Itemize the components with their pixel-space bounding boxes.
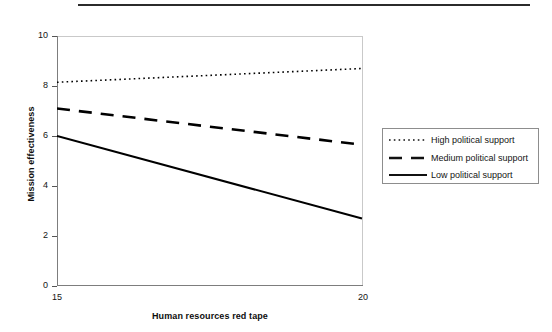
- x-tick-label-20: 20: [348, 293, 378, 302]
- series-line-high-political-support: [57, 69, 362, 83]
- y-tick-mark-10: [52, 36, 57, 37]
- series-line-low-political-support: [57, 136, 362, 219]
- y-tick-mark-8: [52, 86, 57, 87]
- legend-item-high-political-support: High political support: [383, 131, 540, 149]
- y-tick-label-2: 2: [26, 231, 48, 240]
- x-tick-label-15: 15: [42, 293, 72, 302]
- solid-line-swatch: [389, 166, 427, 184]
- legend-label-low-political-support: Low political support: [431, 170, 513, 180]
- y-tick-mark-4: [52, 186, 57, 187]
- series-line-medium-political-support: [57, 109, 362, 145]
- y-tick-label-10: 10: [26, 31, 48, 40]
- legend-item-low-political-support: Low political support: [383, 166, 540, 184]
- legend-label-medium-political-support: Medium political support: [431, 153, 528, 163]
- x-axis-title: Human resources red tape: [110, 311, 310, 321]
- legend-item-medium-political-support: Medium political support: [383, 149, 540, 167]
- legend-label-high-political-support: High political support: [431, 135, 515, 145]
- series-lines: [57, 36, 363, 286]
- dotted-line-swatch: [389, 131, 427, 149]
- y-axis-title: Mission effectiveness: [26, 79, 36, 229]
- legend: High political support Medium political …: [382, 128, 539, 184]
- y-tick-mark-6: [52, 136, 57, 137]
- dashed-line-swatch: [389, 149, 427, 167]
- y-tick-label-0: 0: [26, 281, 48, 290]
- y-tick-mark-0: [52, 286, 57, 287]
- chart-figure: 10 8 6 4 2 0 Mission effectiveness 15 20…: [0, 0, 552, 332]
- y-tick-mark-2: [52, 236, 57, 237]
